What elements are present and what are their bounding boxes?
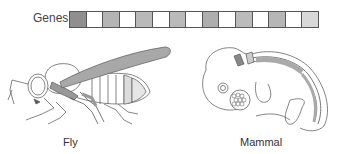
fly-illustration [8, 47, 170, 124]
fly-caption: Fly [63, 136, 78, 148]
mammal-caption: Mammal [240, 136, 282, 148]
organism-illustrations [0, 0, 341, 154]
mammal-embryo-illustration [203, 48, 328, 131]
